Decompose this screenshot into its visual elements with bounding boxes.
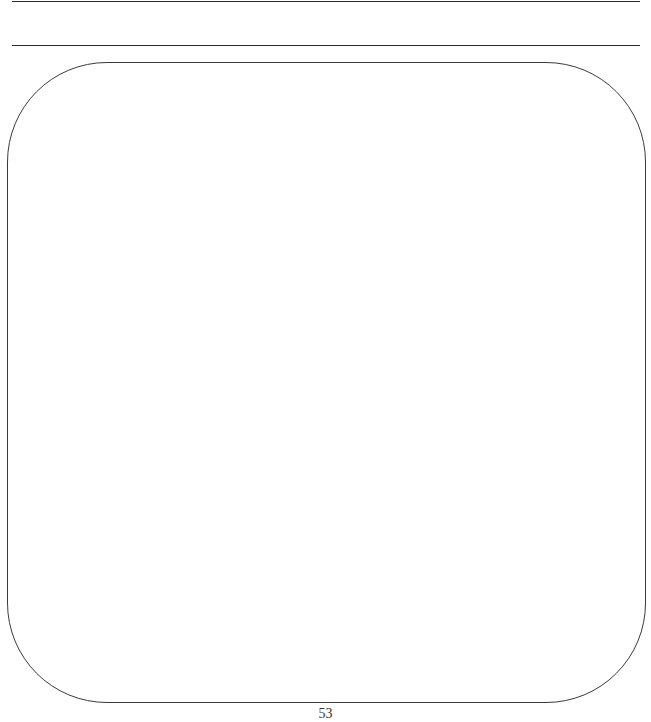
page-number: 53 [0, 706, 651, 722]
rounded-content-frame [7, 62, 646, 703]
header-rule-bottom [12, 45, 640, 46]
header-rule-top [12, 1, 640, 2]
